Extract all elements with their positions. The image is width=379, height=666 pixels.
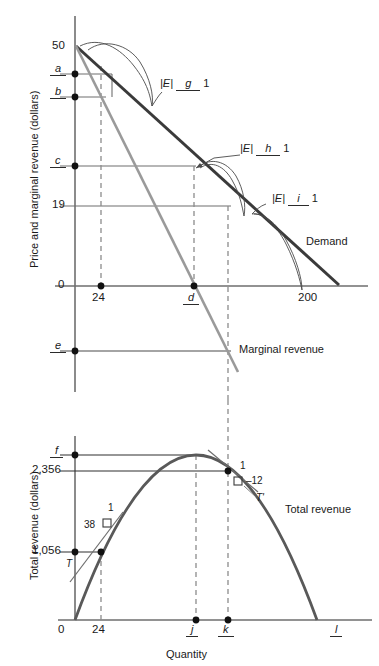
top-dashed-lines — [101, 66, 228, 400]
y-tick-e-blank: e — [50, 340, 66, 353]
slope-triangle-left — [103, 519, 111, 527]
elasticity-upper-prefix: |E| — [160, 77, 173, 89]
top-data-points — [72, 71, 198, 355]
elasticity-middle: |E| h 1 — [240, 143, 289, 156]
point-b — [72, 94, 79, 101]
y-tick-a-wrap: a — [50, 63, 66, 76]
tangent-label-T: T — [66, 559, 72, 569]
x-tick-l-wrap: l — [330, 624, 342, 637]
elasticity-upper-blank: g — [176, 78, 200, 91]
slope-left-rise: 1 — [108, 503, 114, 513]
x-tick-0: 0 — [58, 624, 64, 636]
top-y-axis-title: Price and marginal revenue (dollars) — [28, 91, 40, 268]
bottom-panel-axes — [58, 436, 372, 620]
point-tr-k — [225, 468, 232, 475]
leader-curve-h-inner — [200, 161, 245, 216]
slope-right-run: –12 — [246, 476, 263, 486]
bottom-guide-lines — [60, 455, 228, 552]
y-tick-0: 0 — [58, 279, 64, 291]
figure-canvas — [0, 0, 379, 666]
x-tick-l-blank: l — [330, 624, 342, 637]
elasticity-upper: |E| g 1 — [160, 78, 209, 91]
leader-curve-i-inner — [254, 214, 302, 290]
point-f — [72, 452, 79, 459]
bottom-y-axis-title: Total revenue (dollars) — [28, 471, 40, 580]
slope-left-run: 38 — [84, 520, 95, 530]
bottom-dashed-lines — [101, 400, 228, 620]
point-q24 — [98, 283, 105, 290]
top-guide-lines — [60, 74, 231, 351]
point-c — [72, 163, 79, 170]
y-tick-c-blank: c — [50, 155, 66, 168]
leader-curve-g-stem — [152, 92, 162, 106]
elasticity-lower: |E| i 1 — [272, 193, 318, 206]
y-tick-50: 50 — [52, 40, 65, 52]
elasticity-lower-suffix: 1 — [312, 192, 318, 204]
y-tick-2356: 2,356 — [32, 464, 61, 476]
tangent-label-T-prime: T' — [256, 493, 264, 503]
x-tick-200: 200 — [298, 292, 317, 304]
slope-right-rise: 1 — [240, 461, 246, 471]
x-tick-k-blank: k — [218, 624, 234, 637]
x-tick-j-blank: j — [186, 624, 198, 637]
x-tick-24: 24 — [92, 292, 105, 304]
leader-curve-h-outer — [200, 164, 244, 216]
bottom-x-axis-title: Quantity — [166, 649, 207, 660]
slope-box-left — [103, 519, 111, 527]
y-tick-1056: 1,056 — [32, 545, 61, 557]
y-tick-b-blank: b — [50, 86, 66, 99]
point-a — [72, 71, 79, 78]
y-tick-c-wrap: c — [50, 155, 66, 168]
elasticity-lower-blank: i — [288, 193, 308, 206]
elasticity-middle-blank: h — [256, 143, 280, 156]
point-e — [72, 348, 79, 355]
y-tick-e-wrap: e — [50, 340, 66, 353]
economics-figure: Price and marginal revenue (dollars) 50 … — [0, 0, 379, 666]
y-tick-19: 19 — [52, 199, 65, 211]
point-tr-q24 — [98, 549, 105, 556]
point-1056y — [72, 549, 79, 556]
demand-curve-label: Demand — [306, 236, 348, 247]
elasticity-middle-suffix: 1 — [283, 142, 289, 154]
x-tick-j-wrap: j — [186, 624, 198, 637]
marginal-revenue-curve-label: Marginal revenue — [239, 344, 324, 355]
x-tick-tr-24: 24 — [92, 624, 105, 636]
marginal-revenue-line — [76, 46, 238, 372]
point-j — [193, 617, 200, 624]
y-tick-f-blank: f — [50, 445, 63, 458]
x-tick-d-blank: d — [183, 292, 199, 305]
x-tick-k-wrap: k — [218, 624, 234, 637]
point-qd — [191, 283, 198, 290]
elasticity-middle-prefix: |E| — [240, 142, 253, 154]
total-revenue-curve-label: Total revenue — [285, 504, 351, 515]
top-panel-axes — [55, 16, 368, 392]
leader-curve-i-outer — [252, 214, 302, 290]
tangent-line-T — [70, 512, 123, 582]
elasticity-upper-suffix: 1 — [203, 77, 209, 89]
y-tick-f-wrap: f — [50, 445, 63, 458]
y-tick-b-wrap: b — [50, 86, 66, 99]
y-tick-a-blank: a — [50, 63, 66, 76]
x-tick-d-wrap: d — [183, 292, 199, 305]
elasticity-lower-prefix: |E| — [272, 192, 285, 204]
